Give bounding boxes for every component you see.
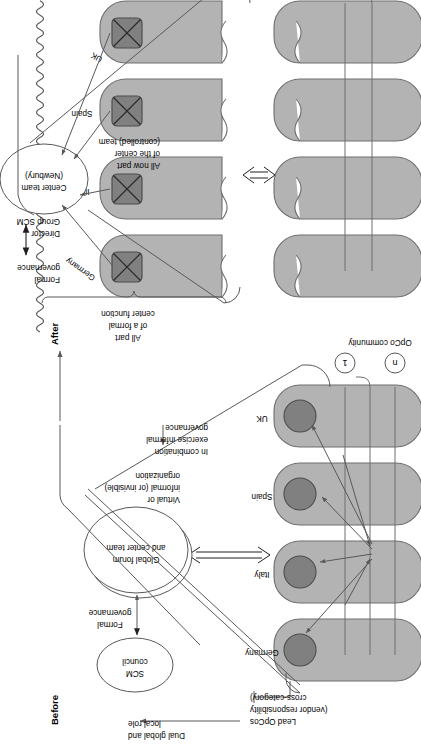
panel-after: After: [0, 0, 421, 345]
opco-marker-n: n: [385, 353, 405, 373]
opco-label: Spain: [71, 109, 92, 118]
formal-governance-after-l2: governance: [17, 263, 60, 272]
diagram-canvas: Before Germany Italy Spain UK: [0, 0, 421, 755]
rotated-diagram-wrapper: Before Germany Italy Spain UK: [0, 0, 421, 755]
opco-label: Spain: [251, 492, 272, 501]
marker-label: 1: [342, 358, 347, 368]
all-part-center-l2: of a formal: [108, 321, 147, 330]
opco-label: UK: [89, 50, 104, 64]
in-combination-l2: exercise informal: [146, 435, 208, 444]
ellipse-line-1: SCM: [126, 669, 144, 678]
ellipse-scm-council[interactable]: SCM council: [97, 638, 173, 692]
virtual-informal-l1: Virtual or: [147, 495, 180, 504]
virtual-informal-l3: organization: [135, 471, 180, 480]
panel-title-before: Before: [49, 695, 60, 725]
opco-pill-uk[interactable]: UK: [256, 385, 421, 447]
director-group-scm-l2: Group SCM: [17, 217, 60, 226]
lead-opco-node[interactable]: [284, 634, 316, 666]
lead-opco-node[interactable]: [284, 400, 316, 432]
opco-community-pill-1[interactable]: [274, 235, 421, 297]
opco-label: Germany: [63, 255, 96, 282]
director-group-scm-l1: Director: [31, 229, 60, 238]
dual-role-l1: Dual global and: [128, 731, 185, 740]
opco-community-pill-2[interactable]: [274, 157, 421, 219]
lead-opco-node[interactable]: [284, 556, 316, 588]
opco-pill-italy[interactable]: Italy: [254, 541, 421, 603]
virtual-informal-l2: informal (or invisible): [104, 483, 180, 492]
center-pill-germany[interactable]: Germany: [63, 235, 227, 297]
lead-opco-node[interactable]: [284, 478, 316, 510]
marker-label: n: [392, 358, 397, 368]
ellipse-line-2: council: [122, 657, 148, 666]
opco-label: UK: [256, 414, 268, 423]
panel-before: Before Germany Italy Spain UK: [49, 338, 421, 740]
lead-opcos-l2: (vendor responsibility: [249, 705, 327, 714]
ellipse-center-team[interactable]: Center team (Newbury): [0, 144, 88, 214]
dual-role-l2: local role: [128, 719, 161, 728]
all-part-center-l1: All part: [115, 333, 141, 342]
hollow-double-arrow-before: [188, 547, 270, 563]
all-now-part-l3: (controlled) team: [98, 137, 160, 146]
hollow-double-arrow-after: [243, 167, 275, 183]
center-pill-uk[interactable]: UK: [89, 1, 227, 64]
all-now-part-l1: All now part: [116, 161, 160, 170]
formal-governance-l1: Formal: [97, 620, 123, 629]
ellipse-line-1: Center team: [21, 183, 66, 192]
opco-pill-germany[interactable]: Germany: [244, 619, 421, 681]
in-combination-l1: In combination: [154, 447, 208, 456]
formal-governance-after-l1: Formal: [34, 275, 60, 284]
panel-title-after: After: [49, 323, 60, 345]
opco-community-pill-4[interactable]: [274, 1, 421, 63]
formal-governance-l2: governance: [88, 608, 131, 617]
ellipse-global-forum[interactable]: Global forum and center team: [84, 507, 192, 598]
all-part-center-l3: center function: [101, 309, 155, 318]
lead-opcos-l1: Lead OpCos: [250, 717, 296, 726]
all-now-part-l2: of the center: [114, 149, 160, 158]
ellipse-line-2: (Newbury): [25, 171, 63, 180]
ellipse-line-2: and center team: [106, 543, 165, 552]
opco-label: Italy: [254, 570, 270, 579]
org-governance-diagram: Before Germany Italy Spain UK: [0, 0, 421, 755]
lead-opcos-l3: cross-category): [250, 693, 307, 702]
opco-community-pill-3[interactable]: [274, 79, 421, 141]
opco-marker-1: 1: [335, 353, 355, 373]
center-uplink-arrows: [62, 33, 112, 265]
in-combination-l3: governance: [165, 423, 208, 432]
opco-community-label-l1: OpCo community: [347, 338, 411, 347]
